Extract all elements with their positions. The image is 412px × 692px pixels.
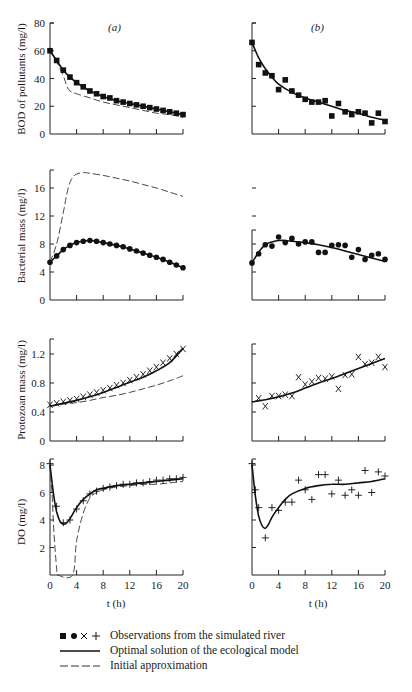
y-tick-label: 80 bbox=[34, 17, 46, 29]
y-tick-label: 16 bbox=[34, 182, 46, 194]
observation-square bbox=[127, 101, 133, 107]
observation-dot bbox=[47, 259, 53, 265]
y-tick-label: 12 bbox=[34, 210, 45, 222]
legend-initial-label: Initial approximation bbox=[110, 658, 207, 673]
xlabel-a: t (h) bbox=[107, 597, 126, 610]
observation-plus bbox=[173, 475, 180, 482]
observation-square bbox=[263, 70, 269, 76]
observation-dot bbox=[80, 238, 86, 244]
observation-square bbox=[147, 105, 153, 111]
chart-bod-of-pollutants-a: 020406080 bbox=[34, 17, 186, 140]
observation-square bbox=[382, 119, 388, 125]
legend-row-observations: Observations from the simulated river bbox=[58, 628, 299, 643]
observation-x bbox=[309, 378, 314, 384]
observation-square bbox=[249, 40, 255, 46]
observation-x bbox=[316, 375, 321, 381]
optimal-solution-line bbox=[252, 42, 385, 120]
ylabel-do: DO (mg/l) bbox=[15, 499, 28, 545]
observation-square bbox=[302, 97, 308, 103]
observation-dot bbox=[154, 254, 160, 260]
y-tick-label: 0 bbox=[40, 128, 46, 140]
x-tick-label: 20 bbox=[178, 579, 190, 591]
panels: 020406080048121600.40.81.224680481216200… bbox=[31, 17, 391, 591]
y-tick-label: 8 bbox=[40, 459, 46, 471]
observation-dot bbox=[309, 239, 315, 245]
observation-dot bbox=[74, 240, 80, 246]
observation-plus bbox=[53, 503, 60, 510]
observation-square bbox=[349, 112, 355, 118]
observation-dot bbox=[100, 240, 106, 246]
chart-protozoan-mass-b bbox=[252, 344, 388, 441]
observation-dot bbox=[316, 250, 322, 256]
chart-bacterial-mass-a: 0481216 bbox=[34, 170, 186, 306]
x-tick-label: 0 bbox=[249, 579, 255, 591]
chart-do-a: 2468048121620 bbox=[40, 459, 190, 591]
optimal-solution-line bbox=[50, 465, 183, 524]
observation-square bbox=[54, 58, 60, 64]
observation-dot bbox=[54, 253, 60, 259]
observation-dot bbox=[289, 236, 295, 242]
observation-x bbox=[356, 354, 361, 360]
observation-x bbox=[296, 374, 301, 380]
observation-square bbox=[376, 110, 382, 116]
observation-dot bbox=[160, 257, 166, 263]
observation-square bbox=[309, 99, 315, 105]
observation-dot bbox=[127, 246, 133, 252]
observation-x bbox=[160, 360, 165, 366]
optimal-solution-line bbox=[50, 348, 183, 406]
y-tick-label: 0 bbox=[40, 294, 46, 306]
observation-square bbox=[80, 84, 86, 90]
initial-approximation-line bbox=[50, 173, 183, 263]
observation-square bbox=[100, 94, 106, 100]
observation-dot bbox=[167, 259, 173, 265]
observation-square bbox=[256, 62, 262, 68]
observation-x bbox=[263, 403, 268, 409]
observation-square bbox=[316, 99, 322, 105]
observation-plus bbox=[315, 471, 322, 478]
observation-plus bbox=[268, 504, 275, 511]
observation-dot bbox=[276, 234, 282, 240]
dashed-line-icon bbox=[58, 660, 110, 672]
observation-square bbox=[107, 95, 113, 101]
y-tick-label: 8 bbox=[40, 238, 46, 250]
observation-plus bbox=[382, 473, 389, 480]
observation-dot bbox=[107, 241, 113, 247]
observation-square bbox=[289, 88, 295, 94]
observation-plus bbox=[262, 534, 269, 541]
observation-square bbox=[160, 108, 166, 114]
observation-square bbox=[167, 109, 173, 115]
observation-plus bbox=[355, 492, 362, 499]
observation-square bbox=[47, 48, 53, 54]
observation-x bbox=[349, 371, 354, 377]
panel-label-b: (b) bbox=[311, 21, 324, 34]
observation-dot bbox=[369, 252, 375, 258]
observation-square bbox=[134, 102, 140, 108]
observation-plus bbox=[282, 499, 289, 506]
x-tick-label: 20 bbox=[380, 579, 392, 591]
observation-plus bbox=[288, 499, 295, 506]
observation-square bbox=[87, 88, 93, 94]
panel-label-a: (a) bbox=[108, 21, 121, 34]
legend-optimal-label: Optimal solution of the ecological model bbox=[110, 643, 299, 658]
observation-dot bbox=[249, 260, 255, 266]
observation-plus bbox=[368, 489, 375, 496]
xlabel-b: t (h) bbox=[309, 597, 328, 610]
observation-dot bbox=[282, 240, 288, 246]
observation-square bbox=[140, 103, 146, 109]
observation-square bbox=[61, 67, 67, 73]
observation-plus bbox=[335, 477, 342, 484]
x-tick-label: 16 bbox=[151, 579, 163, 591]
observation-square bbox=[180, 112, 186, 118]
observation-plus bbox=[375, 468, 382, 475]
y-tick-label: 0.8 bbox=[31, 377, 45, 389]
y-tick-label: 20 bbox=[34, 100, 46, 112]
observation-square bbox=[369, 120, 375, 126]
y-tick-label: 60 bbox=[34, 45, 46, 57]
observation-square bbox=[362, 110, 368, 116]
observation-plus bbox=[153, 477, 160, 484]
solid-line-icon bbox=[58, 645, 110, 657]
observation-plus bbox=[295, 477, 302, 484]
observation-square bbox=[114, 98, 120, 104]
x-tick-label: 12 bbox=[124, 579, 135, 591]
observation-dot bbox=[180, 265, 186, 271]
